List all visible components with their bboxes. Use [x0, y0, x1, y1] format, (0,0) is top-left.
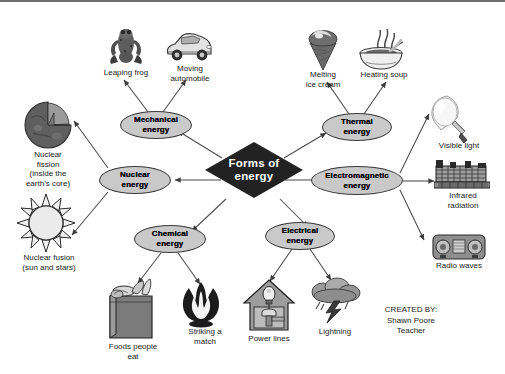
caption-power-lines: Power lines [236, 334, 302, 344]
caption-infrared-line2: radiation [428, 201, 498, 211]
electromagnetic-label-line1: Electromagnetic [325, 171, 389, 181]
light-bulb-icon [427, 93, 473, 145]
caption-leaping-frog: Leaping frog [90, 68, 162, 78]
earth-cutaway-icon [21, 100, 75, 150]
caption-nuclear-fission-line4: earth's core) [10, 179, 86, 189]
caption-match-line1: Striking a [176, 327, 234, 337]
electrical-label-line1: Electrical [282, 226, 319, 236]
soup-bowl-icon [356, 26, 408, 72]
caption-nuclear-fission-line1: Nuclear [10, 150, 86, 160]
caption-melting-ice-cream-line1: Melting [293, 70, 353, 80]
arrow-electrical-to-power-lines [270, 249, 292, 281]
node-chemical-energy[interactable]: Chemical energy [134, 225, 206, 253]
node-nuclear-energy[interactable]: Nuclear energy [99, 166, 171, 194]
caption-foods-line2: eat [95, 352, 171, 362]
caption-melting-ice-cream-line2: ice cream [293, 80, 353, 90]
chemical-label-line2: energy [152, 239, 188, 249]
caption-infrared-line1: Infrared [428, 191, 498, 201]
arrow-chemical-to-striking-a-match [178, 253, 200, 284]
caption-moving-automobile-line1: Moving [160, 64, 220, 74]
electrical-label-line2: energy [282, 236, 319, 246]
thermal-label-line1: Thermal [341, 117, 373, 127]
caption-nuclear-fission-line2: fission [10, 160, 86, 170]
caption-heating-soup: Heating soup [352, 70, 416, 80]
mechanical-label-line1: Mechanical [134, 115, 178, 125]
frog-icon [105, 24, 147, 68]
arrow-center-to-chemical [192, 199, 226, 231]
arrow-thermal-to-heating-soup [364, 82, 386, 114]
caption-melting-ice-cream: Melting ice cream [293, 70, 353, 89]
ice-cream-cone-icon [305, 26, 341, 72]
car-icon [164, 30, 214, 63]
arrow-center-to-mechanical [178, 131, 222, 158]
created-by-credit: CREATED BY: Shawn Poore Teacher [368, 305, 454, 337]
arrow-center-to-thermal [284, 133, 326, 158]
node-mechanical-energy[interactable]: Mechanical energy [120, 111, 192, 139]
caption-nuclear-fission: Nuclear fission (inside the earth's core… [10, 150, 86, 188]
caption-infrared-radiation: Infrared radiation [428, 191, 498, 210]
node-electromagnetic-energy[interactable]: Electromagnetic energy [311, 166, 403, 195]
credit-line1: CREATED BY: [368, 305, 454, 316]
nuclear-label-line2: energy [120, 180, 150, 190]
arrow-electromagnetic-to-radio-waves [400, 190, 424, 240]
space-heater-icon [434, 160, 490, 190]
house-wiring-icon [242, 278, 296, 334]
sun-icon [17, 194, 75, 252]
node-electrical-energy[interactable]: Electrical energy [265, 222, 335, 250]
caption-nuclear-fusion-line2: (sun and stars) [4, 263, 94, 273]
caption-visible-light: Visible light [423, 141, 495, 151]
mechanical-label-line2: energy [134, 125, 178, 135]
caption-nuclear-fusion: Nuclear fusion (sun and stars) [4, 253, 94, 272]
caption-striking-a-match: Striking a match [176, 327, 234, 346]
flame-icon [179, 281, 223, 329]
caption-foods-people-eat: Foods people eat [95, 342, 171, 361]
center-node-label-line1: Forms of [229, 157, 280, 170]
caption-nuclear-fission-line3: (inside the [10, 169, 86, 179]
caption-moving-automobile-line2: automobile [160, 74, 220, 84]
radio-icon [432, 234, 486, 260]
caption-moving-automobile: Moving automobile [160, 64, 220, 83]
center-node-label-line2: energy [229, 170, 280, 183]
caption-radio-waves: Radio waves [422, 261, 496, 271]
grocery-bag-icon [104, 278, 158, 340]
energy-concept-map-canvas: Forms of energy Mechanical energy Therma… [0, 0, 505, 374]
caption-foods-line1: Foods people [95, 342, 171, 352]
electromagnetic-label-line2: energy [325, 181, 389, 191]
arrow-mechanical-to-moving-automobile [163, 80, 186, 112]
caption-match-line2: match [176, 337, 234, 347]
thermal-label-line2: energy [341, 127, 373, 137]
caption-nuclear-fusion-line1: Nuclear fusion [4, 253, 94, 263]
caption-lightning: Lightning [304, 327, 366, 337]
chemical-label-line1: Chemical [152, 229, 188, 239]
credit-line3: Teacher [368, 326, 454, 337]
credit-line2: Shawn Poore [368, 316, 454, 327]
node-thermal-energy[interactable]: Thermal energy [322, 113, 392, 141]
storm-cloud-lightning-icon [308, 276, 362, 324]
arrow-nuclear-to-nuclear-fusion [72, 192, 108, 235]
arrow-mechanical-to-leaping-frog [124, 80, 148, 112]
nuclear-label-line1: Nuclear [120, 170, 150, 180]
